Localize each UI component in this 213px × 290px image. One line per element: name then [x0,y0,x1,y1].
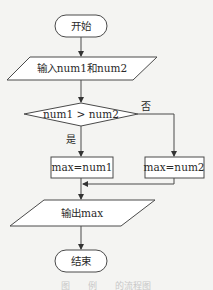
assign-num2-label: max=num2 [143,161,204,173]
assign-num1-node: max=num1 [51,157,113,178]
yes-label: 是 [66,134,76,145]
assign-num2-node: max=num2 [143,157,204,178]
arrow-merge [83,178,174,184]
output-label: 输出max [61,207,103,219]
no-label: 否 [141,101,151,112]
arrow-no-branch [138,114,174,156]
end-label: 结束 [71,255,92,267]
input-node: 输入num1和num2 [7,57,157,80]
output-node: 输出max [10,200,155,226]
decision-label: num1 > num2 [43,108,119,120]
start-label: 开始 [71,20,92,32]
assign-num1-label: max=num1 [51,161,112,173]
start-node: 开始 [55,15,107,37]
input-label: 输入num1和num2 [37,62,127,74]
decision-node: num1 > num2 [24,103,138,126]
figure-caption: 图 例 的流程图 [61,280,151,290]
flowchart: 开始 输入num1和num2 num1 > num2 否 是 max=num1 … [0,0,213,290]
end-node: 结束 [55,250,107,272]
